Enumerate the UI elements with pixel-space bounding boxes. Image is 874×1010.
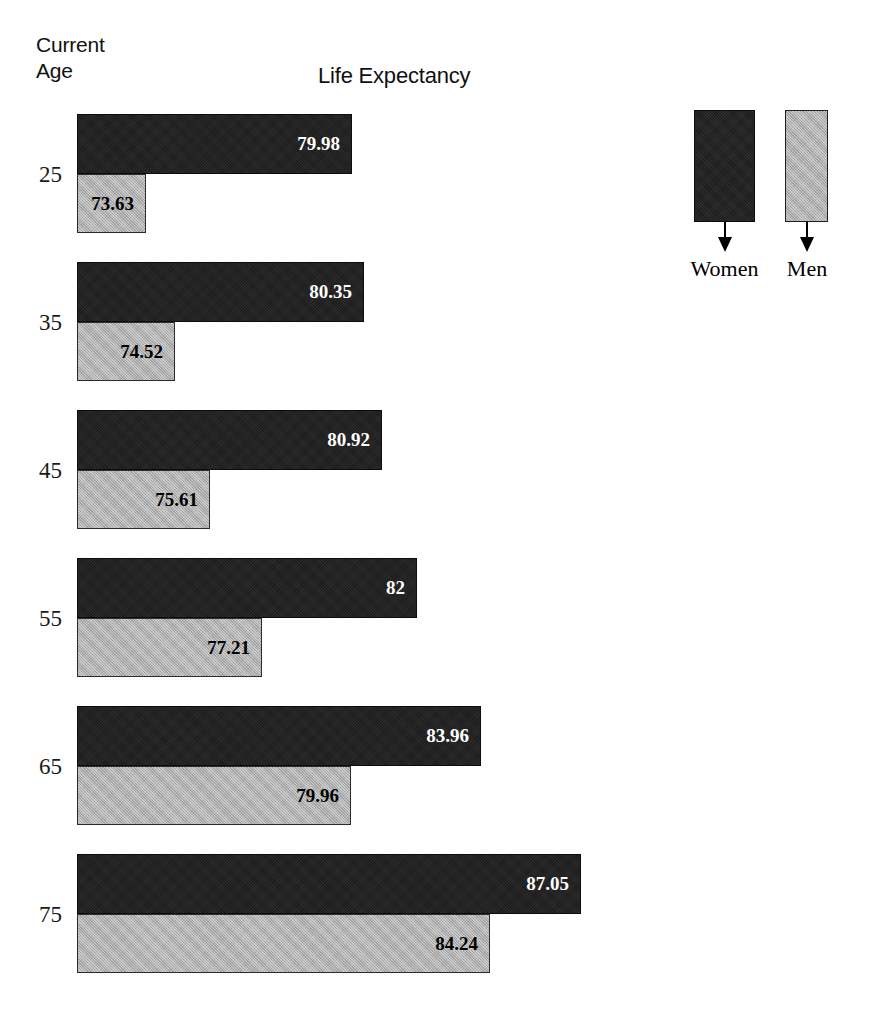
legend-swatch-women [694,110,755,222]
bar-value-women: 83.96 [403,726,469,745]
life-expectancy-chart: Current Age Life Expectancy 2579.9873.63… [0,0,874,1010]
bar-value-men: 74.52 [97,342,163,361]
bar-value-women: 82 [339,578,405,597]
age-label: 65 [0,755,62,778]
bar-value-men: 84.24 [412,934,478,953]
bar-value-women: 87.05 [503,874,569,893]
bar-value-women: 80.92 [304,430,370,449]
age-label: 45 [0,459,62,482]
bar-value-men: 75.61 [132,490,198,509]
age-label: 75 [0,903,62,926]
down-arrow-icon [714,222,736,252]
bar-value-men: 77.21 [184,638,250,657]
legend-label-men: Men [762,258,852,280]
chart-legend: WomenMen [0,0,874,290]
legend-swatch-men [785,110,828,222]
down-arrow-icon [796,222,818,252]
age-label: 35 [0,311,62,334]
bar-value-men: 79.96 [273,786,339,805]
age-label: 55 [0,607,62,630]
